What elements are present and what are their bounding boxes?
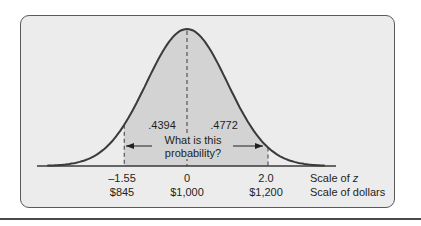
dollar-tick-mid: $1,000: [170, 186, 204, 199]
z-tick-right: 2.0: [258, 172, 273, 185]
area-left-label: .4394: [148, 119, 176, 132]
question-line-2: probability?: [165, 147, 222, 160]
area-right-label: .4772: [210, 119, 238, 132]
z-scale-label: Scale of z: [310, 172, 358, 185]
z-tick-mid: 0: [184, 172, 190, 185]
z-tick-left: –1.55: [108, 172, 136, 185]
question-annotation: What is this probability?: [162, 134, 225, 159]
dollar-tick-left: $845: [110, 186, 134, 199]
dollar-tick-right: $1,200: [249, 186, 283, 199]
dollar-scale-label: Scale of dollars: [310, 186, 385, 199]
question-line-1: What is this: [165, 134, 222, 147]
